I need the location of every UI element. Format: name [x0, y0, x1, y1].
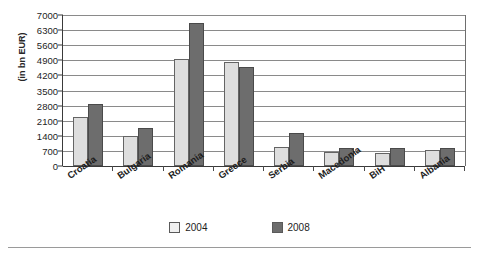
bar-greece-2004 [224, 62, 239, 166]
y-tick-label: 700 [12, 145, 58, 156]
gridline-2100 [63, 121, 465, 122]
gridline-3500 [63, 91, 465, 92]
bar-bih-2008 [390, 148, 405, 166]
bar-romania-2004 [174, 59, 189, 166]
x-tick-mark [213, 166, 214, 171]
x-tick-mark [163, 166, 164, 171]
gridline-6300 [63, 30, 465, 31]
chart-legend: 20042008 [0, 222, 479, 233]
legend-item-2004[interactable]: 2004 [169, 222, 207, 233]
plot-area [62, 15, 466, 166]
x-tick-mark [112, 166, 113, 171]
legend-item-2008[interactable]: 2008 [272, 222, 310, 233]
gridline-4900 [63, 60, 465, 61]
y-axis-tick-labels: 0700140021002800350042004900560063007000 [8, 15, 58, 166]
plot-inner [63, 15, 465, 166]
bar-chart-figure: (in bn EUR) 0700140021002800350042004900… [0, 0, 479, 257]
x-tick-mark [263, 166, 264, 171]
y-tick-label: 7000 [12, 10, 58, 21]
footer-divider [8, 247, 471, 248]
x-tick-mark [364, 166, 365, 171]
y-tick-label: 0 [12, 161, 58, 172]
y-tick-label: 4200 [12, 70, 58, 81]
legend-label-2004: 2004 [185, 222, 207, 233]
gridline-2800 [63, 106, 465, 107]
x-tick-mark [464, 166, 465, 171]
y-tick-label: 6300 [12, 25, 58, 36]
gridline-5600 [63, 45, 465, 46]
gridline-4200 [63, 75, 465, 76]
legend-swatch-2004 [169, 222, 180, 233]
y-tick-label: 3500 [12, 85, 58, 96]
y-tick-label: 2100 [12, 115, 58, 126]
y-tick-label: 2800 [12, 100, 58, 111]
bar-greece-2008 [239, 67, 254, 166]
x-tick-mark [414, 166, 415, 171]
y-tick-label: 5600 [12, 40, 58, 51]
x-tick-mark [313, 166, 314, 171]
legend-swatch-2008 [272, 222, 283, 233]
y-tick-label: 1400 [12, 130, 58, 141]
bar-romania-2008 [189, 23, 204, 166]
gridline-7000 [63, 15, 465, 16]
legend-label-2008: 2008 [288, 222, 310, 233]
y-tick-label: 4900 [12, 55, 58, 66]
